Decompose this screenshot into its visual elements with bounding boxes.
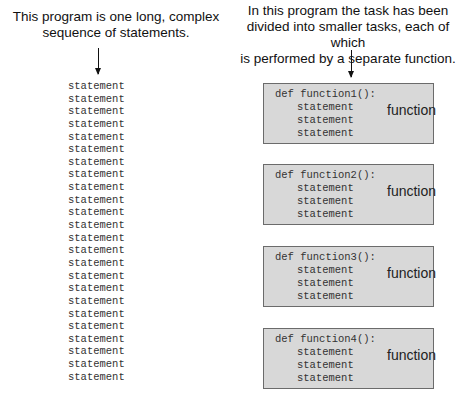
statement-line: statement xyxy=(297,264,354,277)
down-arrow-icon xyxy=(98,48,99,74)
statement-line: statement xyxy=(68,358,125,371)
function-definition: def function2(): xyxy=(275,169,376,182)
statement-line: statement xyxy=(297,346,354,359)
statement-line: statement xyxy=(297,290,354,303)
function-label: function xyxy=(387,265,436,281)
function-definition: def function3(): xyxy=(275,251,376,264)
function-box-2: def function2(): statement statement sta… xyxy=(263,164,434,225)
function-definition: def function4(): xyxy=(275,333,376,346)
statement-line: statement xyxy=(68,93,125,106)
statement-line: statement xyxy=(68,105,125,118)
statement-line: statement xyxy=(68,295,125,308)
function-label: function xyxy=(387,102,436,118)
statement-line: statement xyxy=(297,359,354,372)
caption-line: This program is one long, complex xyxy=(0,9,232,25)
function-body: statement statement statement xyxy=(297,264,354,303)
statement-line: statement xyxy=(297,114,354,127)
statement-line: statement xyxy=(68,333,125,346)
down-arrow-icon xyxy=(351,50,352,77)
statement-line: statement xyxy=(68,257,125,270)
statement-line: statement xyxy=(297,277,354,290)
statement-line: statement xyxy=(297,195,354,208)
statement-line: statement xyxy=(68,143,125,156)
statement-line: statement xyxy=(68,244,125,257)
caption-line: In this program the task has been xyxy=(232,3,464,19)
statement-line: statement xyxy=(68,181,125,194)
statement-line: statement xyxy=(297,127,354,140)
statement-line: statement xyxy=(297,208,354,221)
statement-line: statement xyxy=(68,156,125,169)
statement-line: statement xyxy=(68,194,125,207)
function-body: statement statement statement xyxy=(297,182,354,221)
statement-line: statement xyxy=(68,308,125,321)
statement-line: statement xyxy=(68,270,125,283)
monolithic-program-caption: This program is one long, complex sequen… xyxy=(0,9,232,41)
function-box-1: def function1(): statement statement sta… xyxy=(263,83,434,144)
function-body: statement statement statement xyxy=(297,101,354,140)
statement-line: statement xyxy=(297,101,354,114)
statement-line: statement xyxy=(68,118,125,131)
function-box-3: def function3(): statement statement sta… xyxy=(263,246,434,307)
function-box-4: def function4(): statement statement sta… xyxy=(263,328,434,389)
statement-line: statement xyxy=(68,80,125,93)
function-body: statement statement statement xyxy=(297,346,354,385)
caption-line: divided into smaller tasks, each of whic… xyxy=(232,19,464,51)
statement-line: statement xyxy=(297,182,354,195)
statement-line: statement xyxy=(68,282,125,295)
function-label: function xyxy=(387,347,436,363)
statement-line: statement xyxy=(68,131,125,144)
statement-line: statement xyxy=(68,371,125,384)
statement-line: statement xyxy=(68,232,125,245)
statement-line: statement xyxy=(297,372,354,385)
statement-line: statement xyxy=(68,320,125,333)
statement-line: statement xyxy=(68,219,125,232)
caption-line: sequence of statements. xyxy=(0,25,232,41)
caption-line: is performed by a separate function. xyxy=(232,51,464,67)
statement-list: statement statement statement statement … xyxy=(68,80,125,383)
modular-program-caption: In this program the task has been divide… xyxy=(232,3,464,67)
function-label: function xyxy=(387,183,436,199)
statement-line: statement xyxy=(68,206,125,219)
statement-line: statement xyxy=(68,168,125,181)
function-definition: def function1(): xyxy=(275,88,376,101)
statement-line: statement xyxy=(68,345,125,358)
